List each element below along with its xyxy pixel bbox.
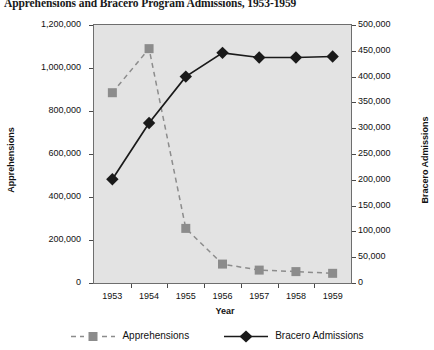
y-tick-right-label: 300,000	[358, 122, 418, 132]
data-point-marker	[328, 269, 337, 278]
data-point-marker	[255, 266, 264, 275]
y-tick-right-label: 250,000	[358, 148, 418, 158]
legend-label-bracero: Bracero Admissions	[275, 330, 363, 341]
y-tick-right-label: 0	[358, 277, 418, 287]
data-point-marker	[290, 51, 302, 63]
chart-title: Apprehensions and Bracero Program Admiss…	[4, 0, 296, 9]
legend-item-bracero: Bracero Admissions	[223, 329, 363, 342]
data-point-marker	[108, 88, 117, 97]
y-axis-label-right: Bracero Admissions	[420, 105, 430, 215]
plot-svg	[94, 25, 351, 283]
data-point-marker	[326, 50, 338, 62]
y-tick-left-label: 1,000,000	[21, 62, 81, 72]
y-tick-left-label: 600,000	[21, 148, 81, 158]
data-point-marker	[106, 173, 118, 185]
legend-swatch-bracero-icon	[223, 329, 269, 342]
y-tick-left-label: 800,000	[21, 105, 81, 115]
data-point-marker	[218, 260, 227, 269]
chart-figure: Apprehensions and Bracero Program Admiss…	[0, 0, 434, 350]
data-point-marker	[145, 44, 154, 53]
data-point-marker	[291, 267, 300, 276]
y-tick-right-label: 350,000	[358, 96, 418, 106]
y-tick-left-label: 1,200,000	[21, 19, 81, 29]
data-point-marker	[181, 224, 190, 233]
y-tick-left-label: 0	[21, 277, 81, 287]
y-tick-right-label: 400,000	[358, 71, 418, 81]
series-line-bracero	[112, 53, 332, 179]
y-tick-left-label: 400,000	[21, 191, 81, 201]
x-tick-label: 1959	[308, 291, 358, 301]
y-tick-right-label: 100,000	[358, 225, 418, 235]
y-tick-right-label: 500,000	[358, 19, 418, 29]
legend-label-apprehensions: Apprehensions	[122, 330, 189, 341]
data-point-marker	[253, 51, 265, 63]
y-tick-left-label: 200,000	[21, 234, 81, 244]
legend-swatch-apprehensions-icon	[70, 329, 116, 342]
y-tick-right-label: 150,000	[358, 200, 418, 210]
y-tick-right-label: 200,000	[358, 174, 418, 184]
data-point-marker	[216, 47, 228, 59]
x-axis-label: Year	[90, 306, 360, 316]
legend-item-apprehensions: Apprehensions	[70, 329, 189, 342]
y-axis-label-left: Apprehensions	[6, 105, 16, 215]
chart-legend: Apprehensions Bracero Admissions	[0, 325, 434, 345]
series-line-apprehensions	[112, 49, 332, 274]
plot-area	[93, 24, 352, 284]
y-tick-right-label: 450,000	[358, 45, 418, 55]
y-tick-right-label: 50,000	[358, 251, 418, 261]
